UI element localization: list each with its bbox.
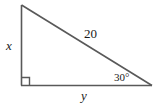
right-angle-marker-icon	[22, 78, 30, 86]
horizontal-leg-label: y	[81, 89, 87, 102]
vertical-leg-label: x	[6, 39, 12, 52]
hypotenuse-line	[22, 5, 153, 86]
triangle-drawing	[0, 0, 158, 107]
hypotenuse-label: 20	[84, 27, 97, 40]
angle-label: 30°	[114, 72, 129, 83]
geometry-figure: x y 20 30°	[0, 0, 158, 107]
